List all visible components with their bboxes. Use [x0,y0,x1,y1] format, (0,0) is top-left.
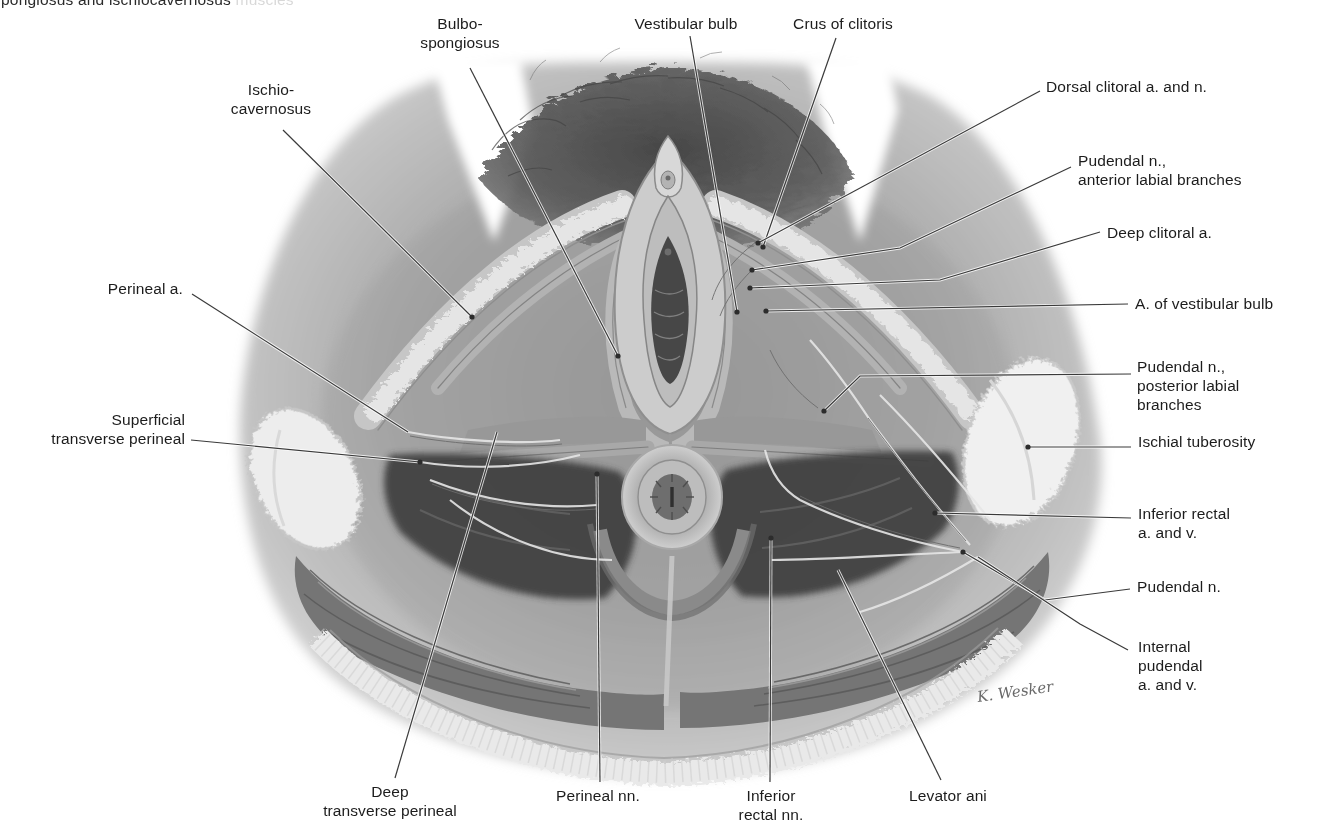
perineum-illustration: K. Wesker [0,0,1317,832]
cropped-caption: pongiosus and ischiocavernosus muscles [1,0,294,9]
cropped-caption-visible: pongiosus and ischiocavernosus [1,0,236,8]
anus [622,445,722,549]
figure-page: K. Wesker Bulbo- spongiosusVestibular bu… [0,0,1317,832]
urethral-opening [665,249,672,256]
cropped-caption-faded: muscles [236,0,294,8]
